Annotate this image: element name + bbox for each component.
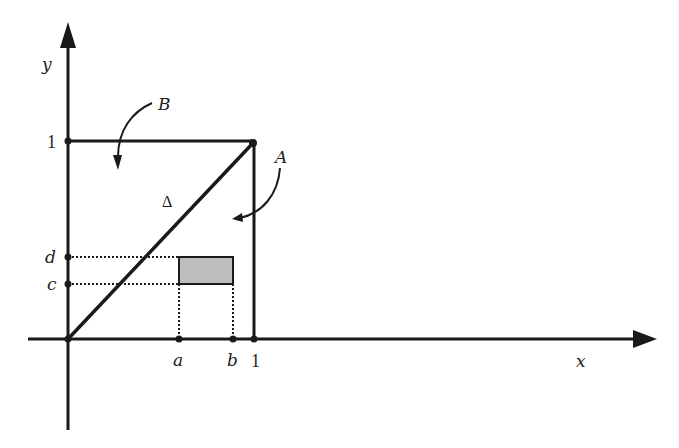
point-c (65, 281, 72, 288)
a-label: a (173, 350, 183, 370)
point-corner (249, 139, 257, 147)
x-axis (28, 330, 657, 348)
unit-square-diagram: y x 1 d c a b 1 B A Δ (0, 0, 679, 448)
y-axis-arrow-icon (60, 22, 76, 48)
region-b-pointer (113, 103, 152, 170)
curved-arrow-icon (240, 168, 280, 218)
y-tick-one: 1 (47, 132, 56, 152)
y-axis (60, 22, 76, 430)
diagonal-line (68, 143, 253, 339)
y-axis-label: y (41, 54, 52, 74)
point-x-one (251, 336, 258, 343)
x-axis-arrow-icon (633, 330, 657, 348)
point-origin (65, 336, 72, 343)
point-y-one (65, 138, 72, 145)
region-b-label: B (157, 94, 171, 114)
point-a (176, 336, 183, 343)
point-d (65, 254, 72, 261)
shaded-rectangle (179, 257, 233, 284)
delta-label: Δ (162, 193, 172, 210)
curved-arrow-icon (118, 103, 152, 157)
d-label: d (45, 247, 56, 267)
b-label: b (227, 350, 238, 370)
x-axis-label: x (576, 351, 586, 371)
x-tick-one: 1 (251, 351, 260, 371)
region-a-pointer (232, 168, 280, 222)
c-label: c (47, 274, 57, 294)
point-b (230, 336, 237, 343)
region-a-label: A (273, 147, 287, 167)
